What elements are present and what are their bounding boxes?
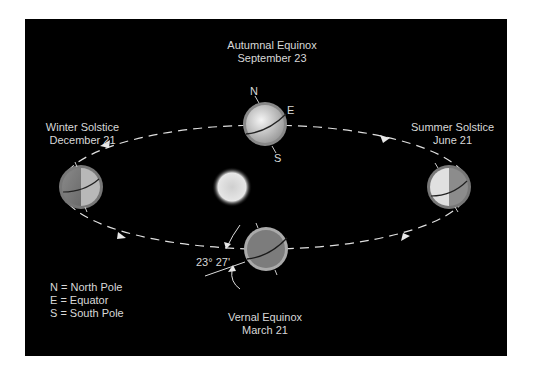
- earth-autumnal: [243, 96, 287, 153]
- summer-name: Summer Solstice: [400, 121, 505, 134]
- tilt-angle-label: 23° 27': [196, 256, 230, 269]
- winter-solstice-label: Winter Solstice December 21: [30, 121, 135, 147]
- autumnal-equinox-label: Autumnal Equinox September 23: [212, 39, 332, 65]
- summer-date: June 21: [400, 134, 505, 147]
- legend-item-south: S = South Pole: [50, 307, 124, 320]
- earth-winter: [59, 162, 103, 212]
- sun: [212, 167, 252, 207]
- autumnal-date: September 23: [212, 52, 332, 65]
- winter-date: December 21: [30, 134, 135, 147]
- orbit-arrow-icon: [100, 135, 410, 241]
- vernal-date: March 21: [210, 324, 320, 337]
- legend-item-north: N = North Pole: [50, 281, 124, 294]
- legend: N = North Pole E = Equator S = South Pol…: [50, 281, 124, 320]
- equator-label: E: [287, 104, 294, 117]
- earth-summer: [427, 163, 471, 212]
- autumnal-name: Autumnal Equinox: [212, 39, 332, 52]
- winter-name: Winter Solstice: [30, 121, 135, 134]
- summer-solstice-label: Summer Solstice June 21: [400, 121, 505, 147]
- vernal-equinox-label: Vernal Equinox March 21: [210, 311, 320, 337]
- vernal-name: Vernal Equinox: [210, 311, 320, 324]
- south-pole-label: S: [274, 152, 281, 165]
- earth-vernal: [244, 223, 288, 275]
- legend-item-equator: E = Equator: [50, 294, 124, 307]
- north-pole-label: N: [250, 85, 258, 98]
